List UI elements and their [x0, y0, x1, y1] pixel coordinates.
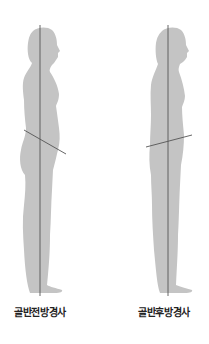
figure-posterior-pelvic-tilt	[104, 0, 209, 344]
figure-anterior-pelvic-tilt	[0, 0, 105, 344]
label-posterior-pelvic-tilt: 골반후방경사	[138, 304, 190, 319]
silhouette-posterior-tilt	[104, 0, 209, 344]
label-anterior-pelvic-tilt: 골반전방경사	[14, 304, 66, 319]
silhouette-anterior-tilt	[0, 0, 105, 344]
